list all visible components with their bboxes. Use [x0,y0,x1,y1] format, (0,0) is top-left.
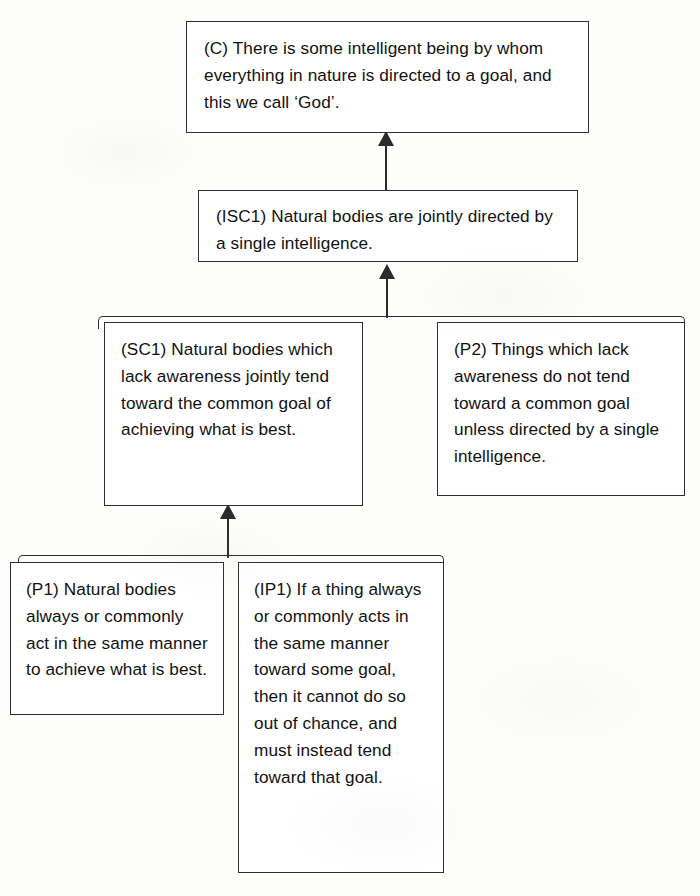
node-sc1-text: (SC1) Natural bodies which lack awarenes… [121,336,348,443]
arrow-shaft-p1ip1-to-sc1 [227,514,229,558]
node-conclusion-c: (C) There is some intelligent being by w… [186,21,589,133]
node-isc1-text: (ISC1) Natural bodies are jointly direct… [216,203,561,257]
node-premise-p2: (P2) Things which lack awareness do not … [437,322,685,496]
node-subconclusion-sc1: (SC1) Natural bodies which lack awarenes… [104,322,363,506]
arrow-head-isc1-to-c [378,131,394,146]
node-p2-text: (P2) Things which lack awareness do not … [454,336,670,470]
node-p1-text: (P1) Natural bodies always or commonly a… [26,576,211,683]
arrow-shaft-sc1p2-to-isc1 [386,274,388,318]
node-intermediate-isc1: (ISC1) Natural bodies are jointly direct… [198,190,578,262]
argument-map-diagram: (C) There is some intelligent being by w… [0,0,700,896]
node-premise-p1: (P1) Natural bodies always or commonly a… [10,562,224,715]
node-implicit-premise-ip1: (IP1) If a thing always or commonly acts… [238,562,444,873]
arrow-shaft-isc1-to-c [385,140,387,190]
node-ip1-text: (IP1) If a thing always or commonly acts… [254,576,431,791]
node-c-text: (C) There is some intelligent being by w… [204,35,572,115]
arrow-head-p1ip1-to-sc1 [220,504,236,519]
arrow-head-sc1p2-to-isc1 [379,264,395,279]
